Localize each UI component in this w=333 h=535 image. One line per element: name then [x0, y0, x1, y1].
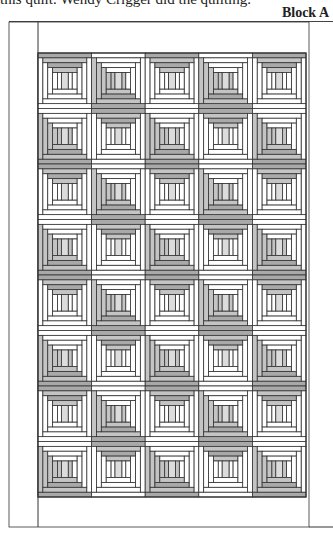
log-strip-top [106, 401, 130, 406]
log-strip-right [233, 405, 238, 422]
log-strip-top [38, 442, 92, 447]
log-strip-bottom [209, 316, 243, 321]
log-strip-bottom [48, 427, 82, 432]
log-strip-left [213, 294, 218, 311]
log-strip-right [296, 285, 301, 321]
log-strip-right [287, 294, 292, 311]
log-strip-top [155, 285, 189, 290]
log-strip-left [213, 128, 218, 145]
log-strip-top [204, 113, 248, 118]
log-strip-right [238, 234, 243, 260]
log-strip-left [204, 340, 209, 376]
log-strip-left [92, 391, 97, 437]
log-strip-left [106, 239, 111, 256]
log-strip-right [301, 224, 306, 270]
log-strip-top [213, 123, 237, 128]
log-strip-bottom [267, 478, 291, 483]
log-strip-bottom [209, 149, 243, 154]
center-side-left [218, 183, 222, 200]
center-side-left [165, 239, 169, 256]
log-strip-right [296, 451, 301, 487]
log-strip-top [199, 53, 253, 58]
log-strip-bottom [199, 270, 253, 275]
center-side-left [272, 72, 276, 89]
log-strip-top [262, 63, 296, 68]
log-strip-top [38, 275, 92, 280]
log-strip-top [213, 401, 237, 406]
log-strip-left [155, 456, 160, 482]
center-side-left [165, 350, 169, 367]
log-strip-bottom [199, 215, 253, 220]
block-center [115, 72, 122, 89]
log-strip-top [155, 118, 189, 123]
log-strip-bottom [199, 437, 253, 442]
log-strip-top [213, 456, 237, 461]
log-strip-right [291, 179, 296, 205]
log-strip-right [184, 179, 189, 205]
log-strip-right [82, 285, 87, 321]
log-strip-right [131, 234, 136, 260]
log-strip-left [38, 391, 43, 437]
center-side-right [175, 183, 179, 200]
block-center [222, 294, 229, 311]
center-side-right [229, 294, 233, 311]
log-strip-top [267, 456, 291, 461]
log-strip-top [48, 229, 82, 234]
log-strip-bottom [106, 200, 130, 205]
log-strip-bottom [267, 145, 291, 150]
log-strip-right [131, 179, 136, 205]
center-side-right [68, 405, 72, 422]
block-center [222, 72, 229, 89]
block-center [169, 461, 176, 478]
log-strip-left [38, 446, 43, 492]
log-strip-bottom [150, 99, 194, 104]
log-strip-top [101, 396, 135, 401]
log-strip-right [243, 174, 248, 210]
log-strip-left [267, 350, 272, 367]
log-strip-right [248, 280, 253, 326]
block-center [61, 128, 68, 145]
log-strip-bottom [101, 260, 135, 265]
log-strip-left [257, 451, 262, 487]
center-side-right [283, 239, 287, 256]
center-side-left [57, 183, 61, 200]
log-strip-right [233, 461, 238, 478]
center-side-right [229, 72, 233, 89]
log-strip-right [135, 396, 140, 432]
log-strip-bottom [150, 210, 194, 215]
log-strip-left [160, 183, 165, 200]
block-center [61, 239, 68, 256]
log-strip-right [189, 340, 194, 376]
center-side-right [229, 128, 233, 145]
log-strip-right [135, 285, 140, 321]
log-strip-bottom [213, 422, 237, 427]
center-side-right [175, 239, 179, 256]
log-strip-top [199, 109, 253, 114]
log-strip-right [194, 335, 199, 381]
center-side-left [272, 350, 276, 367]
log-strip-left [145, 113, 150, 159]
log-strip-top [262, 340, 296, 345]
log-strip-left [38, 280, 43, 326]
log-strip-left [160, 350, 165, 367]
center-side-left [57, 461, 61, 478]
log-strip-bottom [204, 432, 248, 437]
block-center [276, 183, 283, 200]
center-side-right [68, 128, 72, 145]
log-strip-right [248, 169, 253, 215]
center-side-right [283, 183, 287, 200]
log-strip-right [189, 229, 194, 265]
center-side-right [122, 239, 126, 256]
log-strip-right [131, 401, 136, 427]
log-strip-bottom [150, 265, 194, 270]
log-strip-left [145, 446, 150, 492]
log-strip-right [233, 239, 238, 256]
log-strip-left [150, 396, 155, 432]
log-strip-bottom [257, 265, 301, 270]
log-strip-right [238, 123, 243, 149]
log-strip-right [248, 391, 253, 437]
log-strip-bottom [150, 432, 194, 437]
block-center [61, 183, 68, 200]
log-strip-left [209, 290, 214, 316]
log-strip-bottom [53, 145, 77, 150]
